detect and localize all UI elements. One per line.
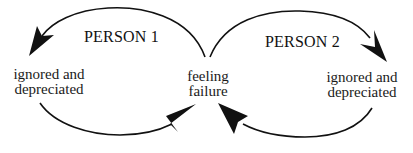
person2-node-line2: depreciated [318, 85, 406, 100]
person1-node: ignored and depreciated [4, 67, 94, 97]
person1-node-line1: ignored and [4, 67, 94, 82]
arrowhead-icon [360, 30, 387, 62]
person2-title: PERSON 2 [265, 34, 340, 50]
arrowhead-icon [29, 26, 54, 56]
person2-node: ignored and depreciated [318, 70, 406, 100]
person2-node-line1: ignored and [318, 70, 406, 85]
center-node-line1: feeling [183, 69, 233, 84]
arrow-person2-node-to-failure [218, 103, 372, 137]
arrow-person1-node-to-failure [40, 103, 196, 135]
person1-title: PERSON 1 [84, 29, 159, 45]
cycle-diagram: PERSON 1 PERSON 2 ignored and depreciate… [0, 0, 413, 153]
center-node-line2: failure [183, 84, 233, 99]
person1-node-line2: depreciated [4, 82, 94, 97]
arrowhead-icon [166, 104, 196, 132]
arrowhead-icon [218, 103, 248, 134]
center-node-feeling-failure: feeling failure [183, 69, 233, 99]
